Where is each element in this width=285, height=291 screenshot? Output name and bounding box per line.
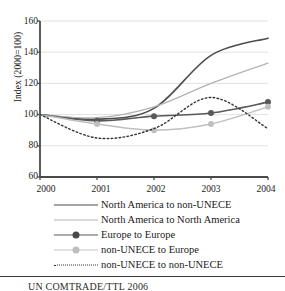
gridlines: [40, 21, 268, 146]
series-marker-2-2: [151, 113, 157, 119]
plot-svg: [0, 0, 285, 196]
legend-label: North America to non-UNECE: [98, 199, 231, 211]
series-marker-3-1: [94, 121, 100, 127]
legend-item-north-america-to-north-america: North America to North America: [54, 213, 240, 227]
legend-swatch-marker-light: [54, 244, 98, 256]
source-caption: UN COMTRADE/TTL 2006: [28, 281, 148, 291]
axis-lines: [40, 21, 268, 177]
legend-swatch-marker-dark: [54, 229, 98, 241]
data-series-group: [40, 38, 271, 138]
legend-item-europe-to-europe: Europe to Europe: [54, 228, 175, 242]
chart-legend: North America to non-UNECE North America…: [0, 196, 285, 269]
legend-swatch-solid-light: [54, 214, 98, 226]
legend-swatch-solid-dark: [54, 199, 98, 211]
legend-label: non-UNECE to non-UNECE: [98, 259, 223, 271]
legend-label: North America to North America: [98, 214, 240, 226]
series-marker-2-3: [208, 110, 214, 116]
chart-figure: Index (2000=100) 160 140 120 100 80 60 2…: [0, 0, 285, 291]
legend-label: Europe to Europe: [98, 229, 175, 241]
legend-swatch-dotted: [54, 259, 98, 271]
legend-item-non-unece-to-europe: non-UNECE to Europe: [54, 243, 199, 257]
series-marker-3-3: [208, 121, 214, 127]
axis-ticks: [37, 21, 268, 180]
footer-divider: [0, 276, 285, 277]
legend-item-north-america-to-non-unece: North America to non-UNECE: [54, 198, 231, 212]
series-marker-3-4: [265, 104, 271, 110]
legend-label: non-UNECE to Europe: [98, 244, 199, 256]
plot-area: Index (2000=100) 160 140 120 100 80 60 2…: [0, 0, 285, 196]
legend-item-non-unece-to-non-unece: non-UNECE to non-UNECE: [54, 258, 223, 272]
